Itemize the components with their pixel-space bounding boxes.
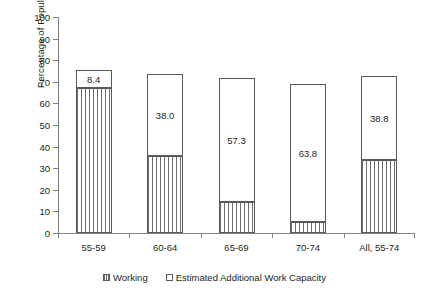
x-axis-tick-label: All, 55-74 <box>339 242 419 253</box>
x-axis-line <box>58 233 415 234</box>
bar-segment-working[interactable] <box>290 222 326 233</box>
y-axis-tick-label: 70 <box>24 77 50 87</box>
bar-group[interactable]: 38.0 <box>147 17 183 233</box>
bar-segment-working[interactable] <box>147 156 183 233</box>
y-axis-line <box>58 17 59 234</box>
y-axis-tick <box>53 147 58 148</box>
hatched-square-icon <box>103 274 110 281</box>
legend-item-estimated-additional-work-capacity: Estimated Additional Work Capacity <box>166 272 326 283</box>
x-axis-tick <box>201 233 202 238</box>
bar-segment-working[interactable] <box>76 88 112 233</box>
y-axis-tick-label: 80 <box>24 56 50 66</box>
y-axis-tick-label: 20 <box>24 185 50 195</box>
y-axis-tick-label: 0 <box>24 229 50 239</box>
y-axis-tick <box>53 168 58 169</box>
y-axis-tick <box>53 60 58 61</box>
bar-value-label: 63.8 <box>298 149 319 159</box>
bar-group[interactable]: 8.4 <box>76 17 112 233</box>
y-axis-tick-label: 30 <box>24 164 50 174</box>
y-axis-tick-label: 40 <box>24 142 50 152</box>
bar-value-label: 8.4 <box>86 75 101 85</box>
x-axis-tick <box>272 233 273 238</box>
x-axis-tick-label: 70-74 <box>268 242 348 253</box>
x-axis-tick-label: 60-64 <box>125 242 205 253</box>
bar-value-label: 38.8 <box>369 114 390 124</box>
x-axis-tick <box>58 233 59 238</box>
open-square-icon <box>166 274 173 281</box>
y-axis-tick-label: 60 <box>24 99 50 109</box>
bar-value-label: 38.0 <box>155 111 176 121</box>
bar-segment-working[interactable] <box>361 160 397 233</box>
y-axis-tick <box>53 39 58 40</box>
y-axis-tick <box>53 17 58 18</box>
bar-group[interactable]: 57.3 <box>219 17 255 233</box>
y-axis-tick <box>53 125 58 126</box>
chart-legend: Working Estimated Additional Work Capaci… <box>0 272 429 283</box>
bar-segment-additional-capacity[interactable]: 38.0 <box>147 74 183 156</box>
y-axis-tick <box>53 103 58 104</box>
plot-area: 010203040506070809010055-598.460-6438.06… <box>58 17 415 233</box>
bar-segment-additional-capacity[interactable]: 38.8 <box>361 76 397 160</box>
legend-label: Working <box>113 272 148 283</box>
legend-item-working: Working <box>103 272 148 283</box>
x-axis-tick <box>129 233 130 238</box>
bar-value-label: 57.3 <box>226 136 247 146</box>
y-axis-tick-label: 100 <box>24 13 50 23</box>
x-axis-tick-label: 65-69 <box>197 242 277 253</box>
y-axis-tick <box>53 190 58 191</box>
y-axis-tick-label: 10 <box>24 207 50 217</box>
y-axis-tick <box>53 82 58 83</box>
x-axis-tick-label: 55-59 <box>54 242 134 253</box>
bar-group[interactable]: 63.8 <box>290 17 326 233</box>
bar-segment-working[interactable] <box>219 202 255 233</box>
y-axis-tick <box>53 211 58 212</box>
stacked-bar-chart: Percentage of Population 010203040506070… <box>0 0 429 296</box>
x-axis-tick <box>414 233 415 238</box>
y-axis-tick-label: 50 <box>24 121 50 131</box>
bar-segment-additional-capacity[interactable]: 63.8 <box>290 84 326 222</box>
x-axis-tick <box>344 233 345 238</box>
bar-segment-additional-capacity[interactable]: 57.3 <box>219 78 255 202</box>
y-axis-tick-label: 90 <box>24 34 50 44</box>
bar-group[interactable]: 38.8 <box>361 17 397 233</box>
legend-label: Estimated Additional Work Capacity <box>176 272 326 283</box>
bar-segment-additional-capacity[interactable]: 8.4 <box>76 70 112 88</box>
